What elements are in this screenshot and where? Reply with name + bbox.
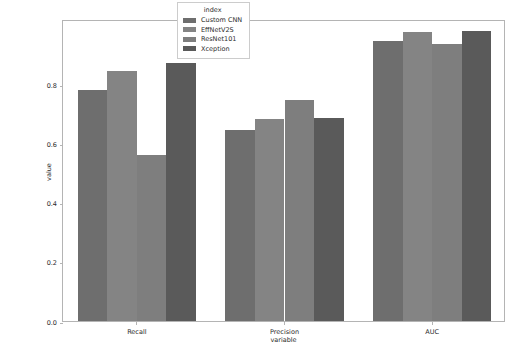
bar <box>137 155 167 321</box>
bar <box>403 32 433 321</box>
legend-label: ResNet101 <box>201 35 236 43</box>
bar <box>432 44 462 321</box>
y-tick-mark <box>60 204 64 205</box>
bar <box>166 63 196 321</box>
x-tick-mark <box>432 321 433 325</box>
x-axis-label: variable <box>270 336 296 344</box>
bar <box>373 41 403 321</box>
legend-swatch <box>183 18 196 23</box>
legend-label: Xception <box>201 45 230 53</box>
x-tick-label: AUC <box>425 328 439 336</box>
chart-figure: value 0.00.20.40.60.8 RecallPrecisionAUC… <box>0 0 525 358</box>
legend-item: ResNet101 <box>183 35 242 43</box>
y-tick-mark <box>60 263 64 264</box>
legend: index Custom CNNEffNetV2SResNet101Xcepti… <box>177 2 250 59</box>
legend-label: EffNetV2S <box>201 26 234 34</box>
legend-item: Xception <box>183 45 242 53</box>
bar <box>107 71 137 321</box>
legend-title: index <box>183 6 242 14</box>
bar <box>462 31 492 321</box>
legend-label: Custom CNN <box>201 16 242 24</box>
x-tick-mark <box>284 321 285 325</box>
y-tick-label: 0.8 <box>47 82 57 90</box>
plot-area: value 0.00.20.40.60.8 RecallPrecisionAUC… <box>62 20 505 322</box>
bar <box>285 100 315 321</box>
y-tick-label: 0.6 <box>47 141 57 149</box>
x-tick-mark <box>136 321 137 325</box>
bar <box>225 130 255 321</box>
x-tick-label: Precision <box>270 328 299 336</box>
legend-swatch <box>183 46 196 51</box>
y-tick-label: 0.2 <box>47 259 57 267</box>
bar <box>314 118 344 321</box>
legend-item: Custom CNN <box>183 16 242 24</box>
y-tick-mark <box>60 323 64 324</box>
legend-swatch <box>183 37 196 42</box>
legend-swatch <box>183 27 196 32</box>
bar <box>78 90 108 321</box>
y-tick-label: 0.0 <box>47 319 57 327</box>
legend-entries: Custom CNNEffNetV2SResNet101Xception <box>183 16 242 53</box>
y-tick-label: 0.4 <box>47 200 57 208</box>
y-tick-mark <box>60 86 64 87</box>
legend-item: EffNetV2S <box>183 26 242 34</box>
x-tick-label: Recall <box>127 328 146 336</box>
bar <box>255 119 285 321</box>
y-axis-label: value <box>45 163 53 181</box>
y-tick-mark <box>60 145 64 146</box>
